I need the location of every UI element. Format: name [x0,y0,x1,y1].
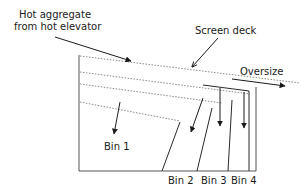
bin-divider-2-3 [197,108,212,171]
feed-label: Hot aggregate from hot elevator [14,10,96,32]
feed-label-line1: Hot aggregate [14,10,96,20]
oversize-chute-line [203,85,249,171]
screen-deck-label: Screen deck [195,26,256,36]
bin1-arrow-icon [114,102,120,134]
bin3-label: Bin 3 [201,176,227,186]
bin2-label: Bin 2 [168,176,194,186]
bin1-label: Bin 1 [104,142,130,152]
screen-deck-pointer-icon [192,38,218,67]
bin-divider-3-4 [228,100,232,171]
screen-deck-3 [80,84,222,103]
oversize-label: Oversize [240,67,283,77]
screen-deck-4 [80,102,180,121]
bin2-arrow-icon [191,98,203,132]
bin4-label: Bin 4 [231,176,257,186]
bin-dividers [162,100,232,171]
bin-divider-1-2 [162,122,180,171]
screen-deck-2 [80,72,250,94]
feed-label-line2: from hot elevator [14,22,96,32]
